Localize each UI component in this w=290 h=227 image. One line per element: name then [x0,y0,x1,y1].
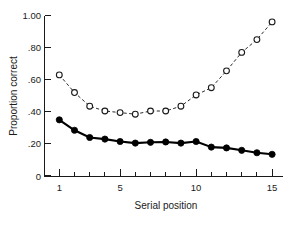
x-tick-label-1: 1 [57,182,62,193]
x-axis-ticks [59,169,272,176]
y-tick-label-0.60: .60 [28,74,41,85]
data-point-filled-circle-series-9 [178,140,184,146]
y-tick-label-0: 0 [36,171,41,182]
data-point-open-circle-series-2 [72,90,78,96]
data-point-open-circle-series-8 [163,108,169,114]
data-point-filled-circle-series-3 [87,134,93,140]
data-point-filled-circle-series-1 [56,117,62,123]
x-axis-title: Serial position [135,200,198,211]
x-axis-tick-labels: 1 5 10 15 [57,182,278,193]
y-tick-label-0.20: .20 [28,138,41,149]
series-open-circle-series [56,19,275,117]
serial-position-line-chart: 1.00 .80 .60 .40 .20 0 Proportion correc… [0,0,290,227]
data-point-open-circle-series-6 [132,111,138,117]
y-tick-label-1.00: 1.00 [23,10,42,21]
data-point-open-circle-series-7 [148,108,154,114]
y-axis-title: Proportion correct [8,56,19,136]
x-tick-label-15: 15 [267,182,278,193]
data-point-filled-circle-series-7 [147,139,153,145]
data-point-open-circle-series-15 [269,19,275,25]
series-filled-circle-series [56,117,275,158]
y-tick-label-0.40: .40 [28,106,41,117]
data-point-open-circle-series-14 [254,37,260,43]
data-point-open-circle-series-9 [178,103,184,109]
data-point-filled-circle-series-14 [254,150,260,156]
chart-figure: 1.00 .80 .60 .40 .20 0 Proportion correc… [0,0,290,227]
y-axis-ticks [45,16,51,177]
data-point-open-circle-series-3 [87,103,93,109]
data-point-filled-circle-series-4 [102,136,108,142]
data-point-filled-circle-series-8 [163,139,169,145]
x-tick-label-5: 5 [117,182,122,193]
data-point-filled-circle-series-2 [71,127,77,133]
data-point-open-circle-series-12 [224,68,230,74]
data-point-open-circle-series-13 [239,50,245,56]
data-point-open-circle-series-11 [208,85,214,91]
data-point-open-circle-series-4 [102,108,108,114]
data-point-filled-circle-series-10 [193,138,199,144]
data-series-layer [56,19,275,157]
data-point-filled-circle-series-13 [239,147,245,153]
data-point-filled-circle-series-5 [117,138,123,144]
data-point-filled-circle-series-12 [223,145,229,151]
data-point-open-circle-series-5 [117,110,123,116]
data-point-filled-circle-series-15 [269,151,275,157]
data-point-open-circle-series-1 [56,72,62,78]
data-point-open-circle-series-10 [193,92,199,98]
y-tick-label-0.80: .80 [28,42,41,53]
series-line-open-circle-series [59,22,272,114]
data-point-filled-circle-series-11 [208,144,214,150]
y-axis-tick-labels: 1.00 .80 .60 .40 .20 0 [23,10,42,182]
x-tick-label-10: 10 [191,182,202,193]
data-point-filled-circle-series-6 [132,140,138,146]
